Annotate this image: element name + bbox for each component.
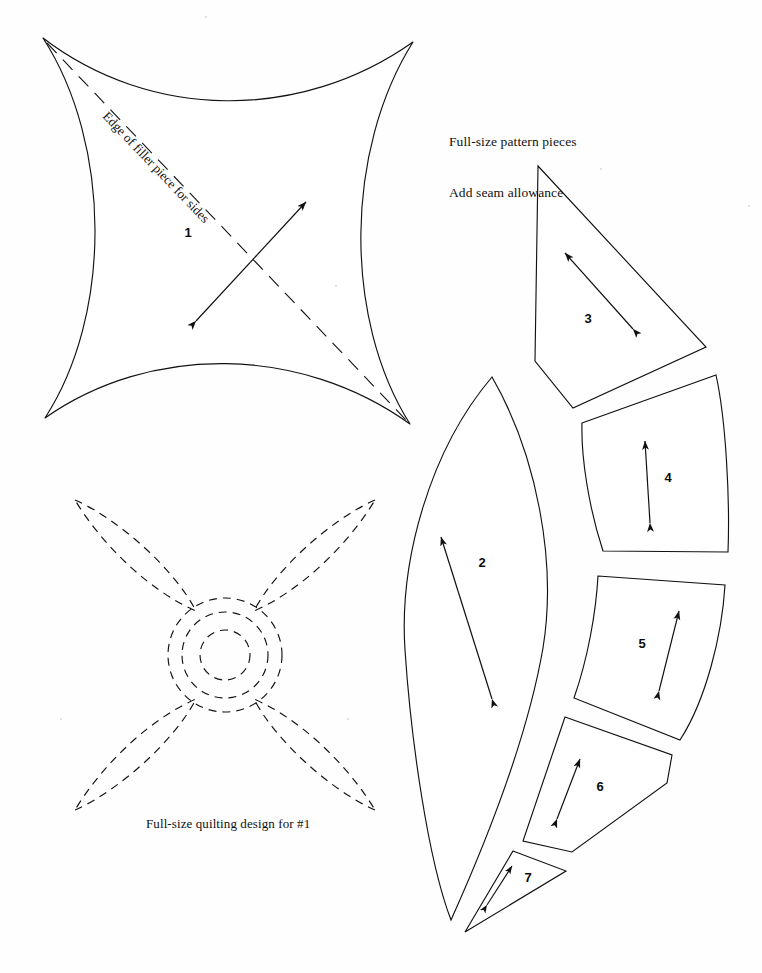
piece-1-outline <box>43 38 413 424</box>
piece-7-group[interactable] <box>465 851 566 932</box>
scan-speck <box>347 718 349 720</box>
pattern-sheet-page: Full-size pattern pieces Add seam allowa… <box>0 0 762 973</box>
quilting-design-note: Full-size quilting design for #1 <box>146 815 310 832</box>
piece-2-number: 2 <box>478 555 485 570</box>
quilting-design-group[interactable] <box>75 500 375 810</box>
pattern-pieces-note-line-1: Full-size pattern pieces <box>449 133 577 150</box>
scan-speck <box>600 168 602 170</box>
quilting-petal-upper-right <box>254 500 375 611</box>
piece-1-group[interactable] <box>43 38 413 424</box>
pattern-pieces-note: Full-size pattern pieces Add seam allowa… <box>449 99 577 235</box>
pattern-artboard <box>0 0 762 973</box>
piece-3-number: 3 <box>584 311 591 326</box>
piece-7-outline <box>465 851 566 932</box>
quilting-petal-lower-left <box>75 699 196 810</box>
piece-5-outline <box>574 576 725 740</box>
quilting-circle-middle <box>182 612 268 698</box>
quilting-circle-inner <box>200 630 250 680</box>
pattern-pieces-note-line-2: Add seam allowance <box>449 184 577 201</box>
piece-4-outline <box>582 375 729 552</box>
scan-speck <box>335 285 337 287</box>
quilting-circle-outer <box>168 598 282 712</box>
quilting-petal-lower-right <box>254 699 375 810</box>
piece-7-number: 7 <box>524 870 531 885</box>
scan-speck <box>60 718 62 720</box>
piece-4-number: 4 <box>664 470 671 485</box>
piece-6-number: 6 <box>596 779 603 794</box>
quilting-petal-upper-left <box>75 500 196 611</box>
piece-1-number: 1 <box>184 225 191 240</box>
piece-4-group[interactable] <box>582 375 729 552</box>
piece-5-number: 5 <box>638 636 645 651</box>
scan-speck <box>748 205 750 207</box>
piece-5-group[interactable] <box>574 576 725 740</box>
scan-speck <box>205 16 207 18</box>
